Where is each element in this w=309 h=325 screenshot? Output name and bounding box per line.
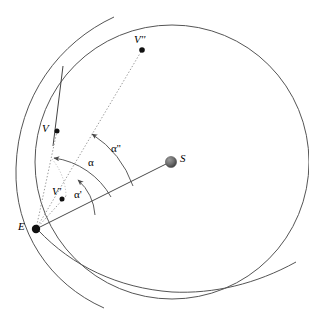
label-V-double-prime: V'' (134, 34, 145, 45)
outer-orbit-arc-lower (38, 230, 296, 292)
tangent-line (53, 66, 63, 146)
point-V (55, 129, 60, 134)
point-E (32, 225, 40, 233)
label-alpha-prime: α' (74, 189, 82, 200)
label-V: V (42, 123, 49, 134)
label-S: S (180, 153, 186, 164)
point-S-sun (165, 156, 176, 167)
outer-orbit-arc (16, 17, 114, 308)
line-E-to-V (36, 131, 57, 229)
geometry-diagram (0, 0, 309, 325)
label-alpha-double-prime: α'' (111, 143, 121, 154)
figure-canvas: S E V V' V'' α α' α'' (0, 0, 309, 325)
label-alpha: α (88, 157, 94, 168)
label-V-prime: V' (52, 186, 61, 197)
point-Vprime (60, 197, 65, 202)
label-E: E (18, 221, 25, 232)
point-Vdoubleprime (139, 47, 145, 53)
